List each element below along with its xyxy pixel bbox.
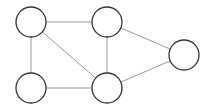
node-n3 [16, 73, 46, 103]
graph-diagram [0, 0, 211, 112]
node-n4 [92, 73, 122, 103]
node-n5 [169, 40, 199, 70]
node-n1 [16, 7, 46, 37]
node-n2 [92, 7, 122, 37]
